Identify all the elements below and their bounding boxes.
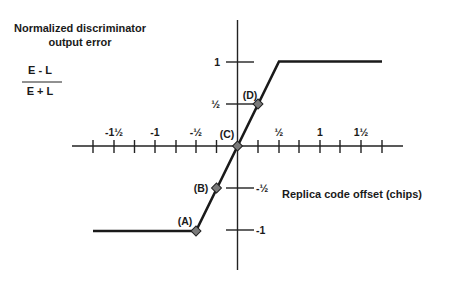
marker-a bbox=[191, 226, 201, 236]
y-tick-label-0-5: ½ bbox=[211, 98, 220, 110]
point-label-d: (D) bbox=[243, 89, 258, 101]
y-tick-label-neg-1: -1 bbox=[256, 224, 265, 236]
x-axis-label: Replica code offset (chips) bbox=[282, 188, 422, 200]
x-tick-label-neg-1: -1 bbox=[150, 126, 159, 138]
y-tick-label-1: 1 bbox=[214, 56, 220, 68]
x-tick-label-1: 1 bbox=[317, 126, 323, 138]
y-tick-label-neg-0-5: -½ bbox=[256, 182, 268, 194]
title-line2: output error bbox=[49, 36, 113, 48]
point-label-a: (A) bbox=[178, 215, 193, 227]
point-label-b: (B) bbox=[194, 182, 209, 194]
x-tick-label-1-5: 1½ bbox=[354, 126, 369, 138]
x-tick-label-0-5: ½ bbox=[275, 126, 284, 138]
title-line1: Normalized discriminator bbox=[14, 22, 147, 34]
marker-c bbox=[233, 141, 243, 151]
formula-denominator: E + L bbox=[27, 85, 54, 97]
x-tick-label-neg-0-5: -½ bbox=[190, 126, 202, 138]
formula-numerator: E - L bbox=[28, 64, 52, 76]
discriminator-diagram: Normalized discriminator output error E … bbox=[0, 0, 450, 287]
x-tick-label-neg-1-5: -1½ bbox=[105, 126, 123, 138]
point-label-c: (C) bbox=[220, 128, 235, 140]
